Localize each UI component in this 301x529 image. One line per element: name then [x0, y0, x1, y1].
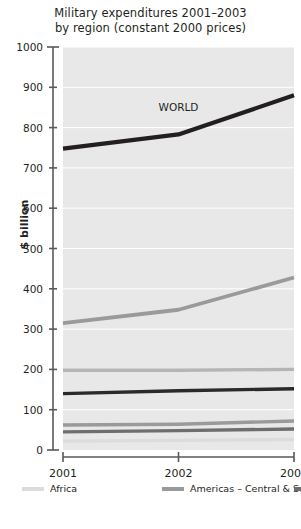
y-tick-label: 200: [23, 363, 43, 375]
line-chart-plot: 0100200300400500600700800900100020012002…: [0, 0, 301, 480]
x-tick-label: 2002: [165, 467, 193, 480]
legend-label: Americas – Central & South: [190, 483, 301, 494]
series-line-africa: [63, 440, 294, 442]
y-tick-label: 300: [23, 323, 43, 335]
series-line-americas-north: [63, 369, 294, 370]
y-tick-label: 800: [23, 122, 43, 134]
legend-label: Africa: [50, 483, 77, 494]
legend-entry[interactable]: Middle East: [294, 481, 301, 496]
y-tick-label: 1000: [16, 41, 43, 53]
y-axis-title: $ billion: [18, 180, 31, 270]
x-tick-label: 2001: [49, 467, 77, 480]
legend-swatch-icon: [294, 487, 301, 491]
y-tick-label: 900: [23, 81, 43, 93]
chart-figure: Military expenditures 2001–2003 by regio…: [0, 0, 301, 529]
y-tick-label: 400: [23, 283, 43, 295]
legend-swatch-icon: [22, 487, 44, 491]
legend-swatch-icon: [162, 487, 184, 491]
y-tick-label: 100: [23, 404, 43, 416]
chart-legend: AfricaAmericas – Central & SouthMiddle E…: [22, 481, 294, 496]
legend-entry[interactable]: Americas – Central & South: [162, 481, 294, 496]
x-tick-label: 2003: [280, 467, 301, 480]
y-tick-label: 700: [23, 162, 43, 174]
chart-annotation-world: WORLD: [159, 101, 199, 113]
legend-entry[interactable]: Africa: [22, 481, 162, 496]
y-tick-label: 0: [36, 444, 43, 456]
